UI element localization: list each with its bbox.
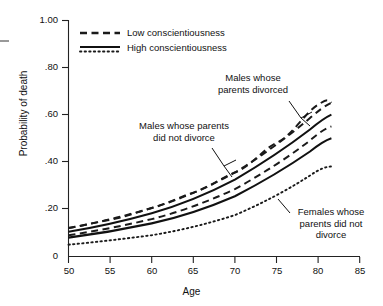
- x-tick-label-5: 70: [224, 265, 246, 276]
- y-tick-label-1: 1.00: [14, 14, 58, 25]
- leader-males-not-divorced-2: [224, 166, 232, 177]
- annotation-males-parents-divorced: Males whose parents divorced: [205, 72, 301, 95]
- chart-figure: 1.00 .80 .60 .40 .20 0 50 55 60 65 70 75…: [0, 0, 383, 306]
- leader-males-divorced: [289, 101, 312, 118]
- x-tick-label-8: 85: [349, 265, 371, 276]
- legend-label-low-conscientiousness: Low conscientiousness: [127, 27, 225, 38]
- y-tick-label-6: 0: [14, 250, 58, 261]
- annotation-leaders: [212, 101, 312, 213]
- annotation-males-parents-not-divorced: Males whose parents did not divorce: [126, 120, 242, 143]
- y-axis-ticks: [62, 21, 68, 209]
- x-tick-label-2: 55: [99, 265, 121, 276]
- x-tick-label-1: 50: [58, 265, 80, 276]
- x-axis-ticks: [69, 257, 360, 263]
- x-axis-title: Age: [0, 286, 383, 297]
- x-tick-label-6: 75: [266, 265, 288, 276]
- leader-males-not-divorced: [212, 148, 236, 166]
- x-tick-label-4: 65: [182, 265, 204, 276]
- annotation-females-parents-not-divorced: Females whose parents did not divorce: [285, 206, 377, 241]
- x-tick-label-7: 80: [307, 265, 329, 276]
- y-axis-title: Probability of death: [18, 59, 29, 169]
- x-tick-label-3: 60: [141, 265, 163, 276]
- legend-label-high-conscientiousness: High conscientiousness: [127, 42, 227, 53]
- y-tick-label-5: .20: [14, 202, 58, 213]
